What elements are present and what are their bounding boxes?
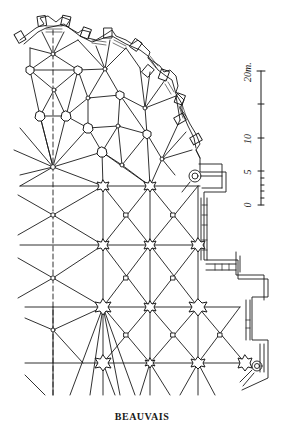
apse-vault-ribs xyxy=(14,32,192,186)
vault-bosses xyxy=(51,52,222,337)
pier xyxy=(74,66,82,75)
pier xyxy=(61,111,71,121)
chevet-outer-wall xyxy=(20,16,200,158)
pier xyxy=(83,123,93,133)
pier xyxy=(97,180,109,192)
pier xyxy=(144,239,156,251)
pier xyxy=(144,180,156,192)
pier xyxy=(97,239,109,251)
scale-label-10: 10 xyxy=(243,127,253,151)
pier xyxy=(97,147,107,157)
scale-bar xyxy=(257,71,265,205)
pier xyxy=(35,111,45,121)
piers xyxy=(26,66,252,371)
south-exterior-wall xyxy=(196,150,268,390)
plan-caption: BEAUVAIS xyxy=(0,411,284,422)
scale-label-20: 20m. xyxy=(243,60,253,84)
main-vessel-diagonal-ribs xyxy=(18,186,135,395)
pier xyxy=(26,66,34,75)
scale-label-5: 5 xyxy=(243,160,253,184)
pier xyxy=(144,301,156,313)
pier xyxy=(189,299,207,316)
wall-windows xyxy=(202,205,250,328)
pier xyxy=(191,357,205,369)
scale-label-0: 0 xyxy=(243,193,253,217)
